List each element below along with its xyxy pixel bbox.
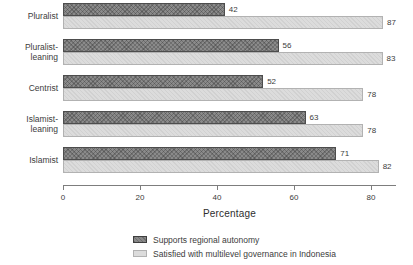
bar-supports-autonomy [63,111,306,124]
bar-group-islamist-leaning: Islamist-leaning 63 78 [0,111,413,137]
value-label: 52 [267,75,276,88]
category-label: Pluralist-leaning [0,42,63,62]
x-axis-tick [371,186,372,190]
x-axis-tick [217,186,218,190]
category-label: Islamist-leaning [0,114,63,134]
value-label: 87 [387,16,396,29]
bar-supports-autonomy [63,75,263,88]
category-label: Islamist [0,155,63,165]
bar-supports-autonomy [63,3,225,16]
value-label: 78 [367,124,376,137]
x-axis-tick [294,186,295,190]
category-label: Pluralist [0,11,63,21]
x-axis: 0 20 40 60 80 [63,185,396,207]
x-axis-line [63,185,396,186]
x-axis-tick-label: 60 [290,193,299,202]
value-label: 63 [310,111,319,124]
x-axis-tick-label: 40 [213,193,222,202]
bar-group-centrist: Centrist 52 78 [0,75,413,101]
plot-area: Pluralist 42 87 Pluralist-leaning 56 [0,3,413,183]
legend-label: Supports regional autonomy [153,235,259,245]
legend-label: Satisfied with multilevel governance in … [153,249,336,259]
x-axis-tick-label: 20 [136,193,145,202]
bar-satisfied-governance [63,16,383,29]
bar-satisfied-governance [63,52,383,65]
bar-satisfied-governance [63,124,363,137]
bar-satisfied-governance [63,88,363,101]
value-label: 83 [387,52,396,65]
bar-supports-autonomy [63,39,279,52]
x-axis-tick-label: 80 [367,193,376,202]
x-axis-tick [63,186,64,190]
value-label: 42 [229,3,238,16]
value-label: 78 [367,88,376,101]
bar-supports-autonomy [63,147,336,160]
bar-satisfied-governance [63,160,379,173]
legend-swatch-light [133,250,147,257]
bar-group-pluralist: Pluralist 42 87 [0,3,413,29]
value-label: 71 [340,147,349,160]
legend-item-satisfied-governance: Satisfied with multilevel governance in … [133,248,336,259]
bar-chart: Pluralist 42 87 Pluralist-leaning 56 [0,0,413,265]
x-axis-title: Percentage [63,208,396,219]
legend: Supports regional autonomy Satisfied wit… [133,234,336,262]
x-axis-tick-label: 0 [61,193,65,202]
value-label: 82 [383,160,392,173]
category-label: Centrist [0,83,63,93]
value-label: 56 [283,39,292,52]
x-axis-tick [140,186,141,190]
bar-group-islamist: Islamist 71 82 [0,147,413,173]
bar-group-pluralist-leaning: Pluralist-leaning 56 83 [0,39,413,65]
legend-item-supports-autonomy: Supports regional autonomy [133,234,336,245]
legend-swatch-dark [133,236,147,243]
